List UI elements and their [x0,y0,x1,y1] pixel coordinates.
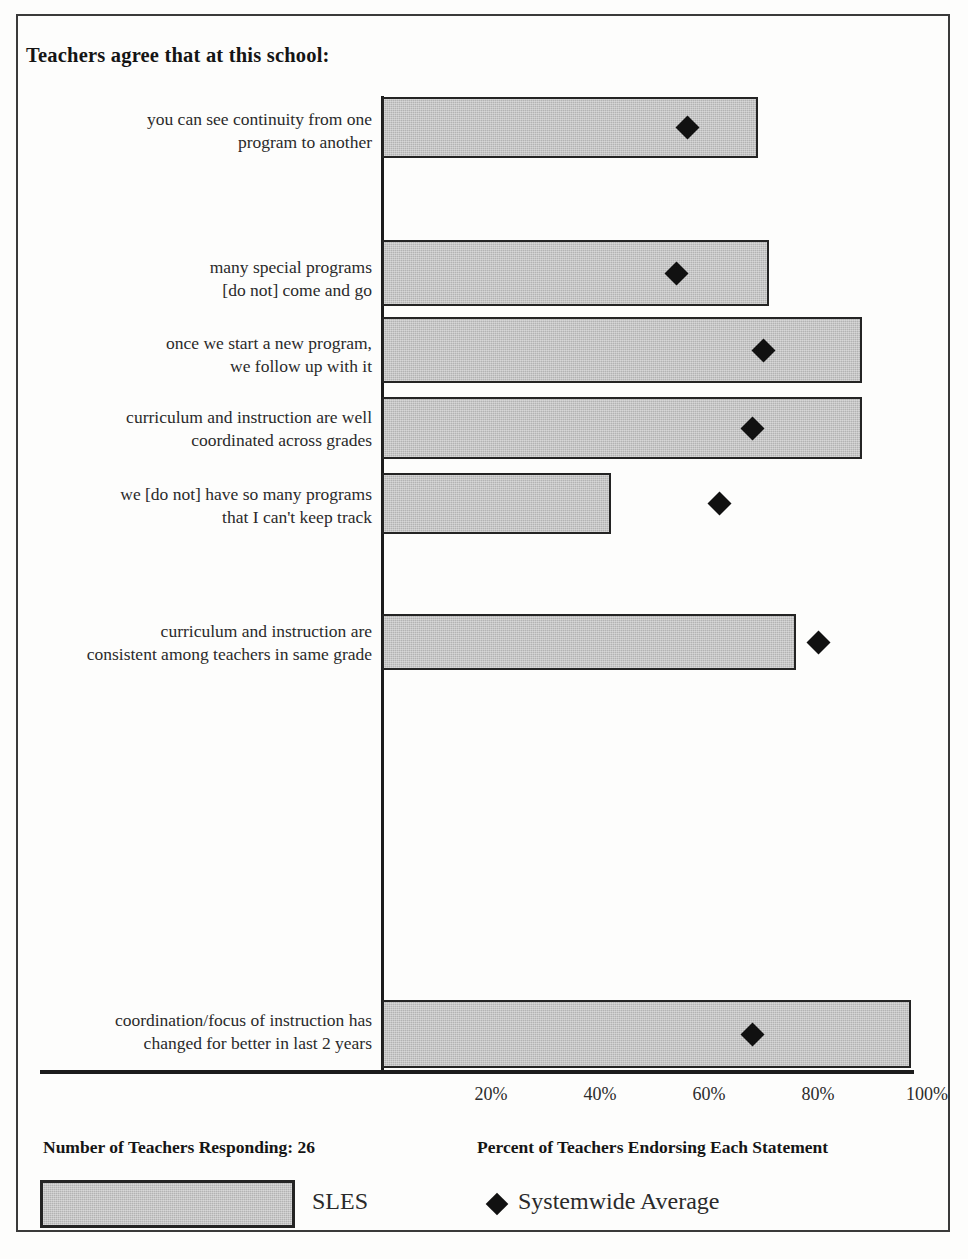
category-label-line2: [do not] come and go [42,279,372,302]
category-label-line2: we follow up with it [42,355,372,378]
bar-2 [382,240,769,306]
category-label-line2: coordinated across grades [42,429,372,452]
x-tick-label-60pct: 60% [674,1084,744,1105]
x-tick-label-20pct: 20% [456,1084,526,1105]
respondents-note: Number of Teachers Responding: 26 [43,1137,315,1158]
systemwide-average-marker-6 [806,630,830,654]
category-label-line1: we [do not] have so many programs [42,483,372,506]
category-label-1: you can see continuity from oneprogram t… [42,108,372,154]
category-label-line1: curriculum and instruction are well [42,406,372,429]
bar-1 [382,97,758,158]
legend-marker-label: Systemwide Average [518,1188,720,1215]
category-label-line2: program to another [42,131,372,154]
category-label-3: once we start a new program,we follow up… [42,332,372,378]
category-label-line1: curriculum and instruction are [42,620,372,643]
bar-6 [382,614,796,670]
legend-bar-label: SLES [312,1188,368,1215]
plot-area: you can see continuity from oneprogram t… [0,0,968,1259]
legend-bar-swatch [40,1180,295,1228]
category-label-2: many special programs[do not] come and g… [42,256,372,302]
category-label-7: coordination/focus of instruction hascha… [42,1009,372,1055]
category-label-line1: you can see continuity from one [42,108,372,131]
chart-page: Teachers agree that at this school: you … [0,0,968,1259]
x-tick-label-100pct: 100% [892,1084,962,1105]
category-label-6: curriculum and instruction areconsistent… [42,620,372,666]
category-label-line2: consistent among teachers in same grade [42,643,372,666]
category-label-line1: coordination/focus of instruction has [42,1009,372,1032]
category-label-5: we [do not] have so many programsthat I … [42,483,372,529]
category-label-line2: that I can't keep track [42,506,372,529]
x-tick-label-40pct: 40% [565,1084,635,1105]
category-label-4: curriculum and instruction are wellcoord… [42,406,372,452]
category-label-line2: changed for better in last 2 years [42,1032,372,1055]
x-tick-label-80pct: 80% [783,1084,853,1105]
bar-4 [382,397,862,459]
systemwide-average-marker-5 [708,491,732,515]
x-axis-line [40,1070,914,1074]
bar-3 [382,317,862,383]
category-label-line1: once we start a new program, [42,332,372,355]
bar-7 [382,1000,911,1068]
x-axis-caption: Percent of Teachers Endorsing Each State… [477,1137,828,1158]
bar-5 [382,473,611,534]
category-label-line1: many special programs [42,256,372,279]
